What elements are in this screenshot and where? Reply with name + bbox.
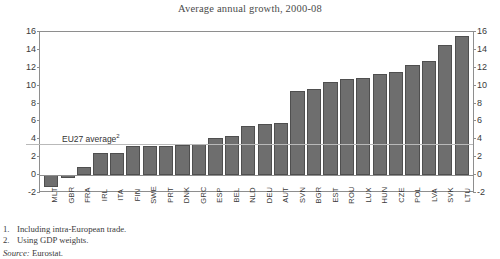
x-label-text: GRC bbox=[199, 186, 208, 203]
bar-ltu[interactable] bbox=[455, 36, 469, 176]
y-axis-right: 1614121086420-2 bbox=[477, 31, 500, 192]
x-label-text: ESP bbox=[215, 187, 224, 203]
x-label-grc: GRC bbox=[192, 193, 206, 223]
x-label-text: IRL bbox=[100, 189, 109, 201]
bar-mlt[interactable] bbox=[44, 175, 58, 187]
x-label-text: FRA bbox=[83, 187, 92, 203]
y-tick-8: 8 bbox=[477, 98, 482, 108]
x-label-text: FIN bbox=[133, 189, 142, 202]
eu27-average-footnote-ref: 2 bbox=[116, 133, 119, 139]
bar-cze[interactable] bbox=[389, 72, 403, 175]
y-tick-neg2: -2 bbox=[477, 187, 485, 197]
y-tick-mark bbox=[473, 31, 476, 32]
eu27-average-label: EU27 average2 bbox=[62, 133, 120, 144]
x-label-gbr: GBR bbox=[60, 193, 74, 223]
x-label-prt: PRT bbox=[159, 193, 173, 223]
bar-bel[interactable] bbox=[225, 136, 239, 175]
source-label: Source: bbox=[3, 248, 30, 258]
x-label-bel: BEL bbox=[225, 193, 239, 223]
bar-prt[interactable] bbox=[159, 146, 173, 176]
x-label-text: BEL bbox=[232, 188, 241, 203]
x-label-dnk: DNK bbox=[175, 193, 189, 223]
footnotes: 1. Including intra-European trade. 2. Us… bbox=[3, 224, 497, 259]
bar-gbr[interactable] bbox=[61, 175, 75, 178]
footnote-1-text: Including intra-European trade. bbox=[17, 224, 126, 235]
bar-nld[interactable] bbox=[241, 126, 255, 175]
x-label-ltu: LTU bbox=[456, 193, 470, 223]
y-tick-6: 6 bbox=[477, 115, 482, 125]
bar-dnk[interactable] bbox=[175, 145, 189, 175]
y-tick-4: 4 bbox=[31, 133, 36, 143]
x-label-text: ITA bbox=[116, 189, 125, 201]
x-label-pol: POL bbox=[406, 193, 420, 223]
bar-slot bbox=[192, 32, 206, 191]
y-tick-14: 14 bbox=[26, 44, 36, 54]
x-label-svn: SVN bbox=[291, 193, 305, 223]
bar-slot bbox=[77, 32, 91, 191]
bar-slot bbox=[340, 32, 354, 191]
bar-fin[interactable] bbox=[126, 146, 140, 176]
y-tick-4: 4 bbox=[477, 133, 482, 143]
x-label-mlt: MLT bbox=[43, 193, 57, 223]
bar-bgr[interactable] bbox=[307, 89, 321, 175]
x-axis-labels: MLTGBRFRAIRLITAFINSWEPRTDNKGRCESPBELNLDD… bbox=[39, 193, 474, 223]
bar-esp[interactable] bbox=[208, 138, 222, 175]
footnote-1: 1. Including intra-European trade. bbox=[3, 224, 497, 235]
bar-slot bbox=[307, 32, 321, 191]
y-tick-mark bbox=[473, 49, 476, 50]
y-tick-8: 8 bbox=[31, 98, 36, 108]
y-tick-0: 0 bbox=[31, 169, 36, 179]
bar-grc[interactable] bbox=[192, 144, 206, 175]
y-axis-left: 1614121086420-2 bbox=[8, 31, 36, 192]
x-label-text: GBR bbox=[67, 187, 76, 204]
bar-slot bbox=[323, 32, 337, 191]
x-label-esp: ESP bbox=[208, 193, 222, 223]
bar-svk[interactable] bbox=[438, 45, 452, 175]
x-label-fra: FRA bbox=[76, 193, 90, 223]
bar-slot bbox=[438, 32, 452, 191]
x-label-nld: NLD bbox=[241, 193, 255, 223]
y-tick-mark bbox=[473, 67, 476, 68]
x-label-lux: LUX bbox=[357, 193, 371, 223]
plot-area: EU27 average2 bbox=[39, 31, 474, 192]
bar-swe[interactable] bbox=[143, 146, 157, 176]
bar-rou[interactable] bbox=[340, 79, 354, 175]
x-label-text: CZE bbox=[397, 187, 406, 203]
x-label-text: SVN bbox=[298, 187, 307, 203]
bar-est[interactable] bbox=[323, 82, 337, 175]
source-value: Eurostat. bbox=[32, 248, 63, 258]
y-tick-2: 2 bbox=[31, 151, 36, 161]
bar-irl[interactable] bbox=[93, 153, 107, 175]
y-tick-mark bbox=[473, 174, 476, 175]
bar-slot bbox=[110, 32, 124, 191]
bar-slot bbox=[61, 32, 75, 191]
x-label-svk: SVK bbox=[439, 193, 453, 223]
x-label-text: SVK bbox=[446, 187, 455, 203]
y-tick-mark bbox=[473, 85, 476, 86]
bar-lva[interactable] bbox=[422, 61, 436, 175]
y-tick-6: 6 bbox=[31, 115, 36, 125]
bar-lux[interactable] bbox=[356, 78, 370, 175]
bar-pol[interactable] bbox=[405, 65, 419, 175]
bar-slot bbox=[225, 32, 239, 191]
bar-deu[interactable] bbox=[258, 124, 272, 175]
x-label-text: ROU bbox=[347, 186, 356, 203]
x-label-deu: DEU bbox=[258, 193, 272, 223]
y-tick-mark bbox=[473, 138, 476, 139]
bar-svn[interactable] bbox=[290, 91, 304, 175]
bar-slot bbox=[274, 32, 288, 191]
bar-slot bbox=[175, 32, 189, 191]
bar-slot bbox=[159, 32, 173, 191]
x-label-swe: SWE bbox=[142, 193, 156, 223]
footnote-2-text: Using GDP weights. bbox=[17, 235, 88, 246]
bar-slot bbox=[258, 32, 272, 191]
bar-hun[interactable] bbox=[373, 74, 387, 175]
y-tick-16: 16 bbox=[26, 26, 36, 36]
bar-fra[interactable] bbox=[77, 167, 91, 175]
bar-series bbox=[40, 32, 473, 191]
x-label-lva: LVA bbox=[423, 193, 437, 223]
bar-ita[interactable] bbox=[110, 153, 124, 175]
bar-aut[interactable] bbox=[274, 123, 288, 175]
chart-figure: Average annual growth, 2000-08 161412108… bbox=[0, 0, 500, 259]
y-tick-10: 10 bbox=[477, 80, 487, 90]
